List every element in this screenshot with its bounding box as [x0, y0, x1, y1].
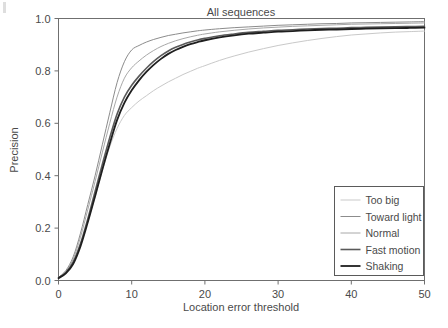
legend-item-label[interactable]: Too big: [366, 194, 400, 206]
x-tick-label: 0: [55, 288, 61, 300]
y-tick-label: 0.2: [35, 222, 50, 234]
x-axis-ticks: 01020304050: [55, 281, 430, 300]
figure-container: All sequences 0.00.20.40.60.81.0 0102030…: [0, 0, 448, 328]
x-tick-label: 50: [418, 288, 430, 300]
legend[interactable]: Too bigToward lightNormalFast motionShak…: [335, 187, 424, 276]
x-tick-label: 40: [345, 288, 357, 300]
x-tick-label: 10: [126, 288, 138, 300]
legend-item-label[interactable]: Normal: [366, 227, 400, 239]
y-axis-title: Precision: [8, 127, 20, 172]
y-tick-label: 1.0: [35, 13, 50, 25]
chart-title: All sequences: [207, 6, 276, 18]
y-tick-label: 0.0: [35, 275, 50, 287]
y-tick-label: 0.8: [35, 65, 50, 77]
y-tick-label: 0.6: [35, 117, 50, 129]
precision-plot: All sequences 0.00.20.40.60.81.0 0102030…: [0, 0, 448, 328]
y-tick-label: 0.4: [35, 170, 50, 182]
legend-item-label[interactable]: Shaking: [366, 260, 404, 272]
x-axis-title: Location error threshold: [183, 301, 299, 313]
x-tick-label: 20: [199, 288, 211, 300]
y-axis-ticks: 0.00.20.40.60.81.0: [35, 13, 58, 287]
legend-item-label[interactable]: Fast motion: [366, 244, 421, 256]
scan-artifact: [3, 2, 6, 13]
x-tick-label: 30: [272, 288, 284, 300]
legend-item-label[interactable]: Toward light: [366, 211, 422, 223]
